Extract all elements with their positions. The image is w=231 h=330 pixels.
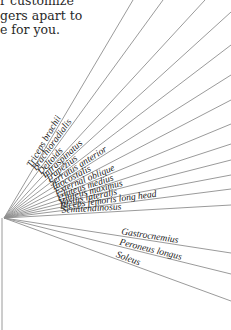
ray-line xyxy=(4,218,231,274)
muscle-fan-diagram: Triceps brachiiBrachioradialisDeltoidsIn… xyxy=(0,0,231,330)
muscle-label: Semitendinosus xyxy=(61,200,121,214)
ray-line xyxy=(4,218,231,253)
muscle-ray: Gastrocnemius xyxy=(4,218,231,253)
muscle-ray: Soleus xyxy=(4,218,231,301)
muscle-ray: Peroneus longus xyxy=(4,218,231,274)
